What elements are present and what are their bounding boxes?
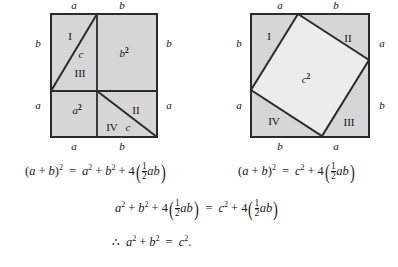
left-region-II: II (132, 104, 140, 116)
left-diagram-svg: I III II IV c c b2 a2 (50, 13, 158, 138)
left-bottom-label-a: a (62, 141, 86, 152)
eq1r-exp: 2 (272, 163, 276, 172)
left-region-IV: IV (106, 121, 118, 133)
eq2-coef1: 4 (162, 201, 168, 215)
eq1r-a: a (242, 164, 248, 178)
equation-2: a2+b2+4(12ab)=c2+4(12ab) (115, 199, 279, 220)
eq2-fraction-2: 12 (255, 199, 260, 220)
eq1l-coef: 4 (129, 164, 135, 178)
therefore-symbol: ∴ (112, 235, 120, 249)
left-top-label-b: b (110, 0, 134, 11)
eq1r-equals: = (282, 164, 289, 178)
eq2-t2exp: 2 (145, 200, 149, 209)
eq2-frac2-den: 2 (255, 208, 260, 219)
eq1l-plus3: + (119, 164, 126, 178)
eq2-fraction-1: 12 (175, 199, 180, 220)
right-bottom-label-a: a (324, 141, 348, 152)
eq1l-exp: 2 (59, 163, 63, 172)
equation-3: ∴a2+b2=c2. (112, 236, 191, 249)
left-diagram: I III II IV c c b2 a2 (50, 13, 158, 138)
eq1l-fraction: 12 (142, 162, 147, 183)
eq1l-plus1: + (38, 164, 45, 178)
eq2-coef2: 4 (241, 201, 247, 215)
left-right-label-a: a (163, 100, 175, 111)
eq2-frac1-den: 2 (175, 208, 180, 219)
eq3-equals: = (166, 235, 173, 249)
right-region-III: III (344, 116, 355, 128)
eq2-prod1: ab (180, 201, 193, 215)
left-left-label-b: b (32, 38, 44, 49)
eq1l-frac-den: 2 (142, 171, 147, 182)
eq2-equals: = (205, 201, 212, 215)
eq1l-frac-num: 1 (142, 162, 147, 172)
right-diagram-svg: I II III IV c2 (250, 13, 370, 138)
eq1r-t1exp: 2 (301, 163, 305, 172)
left-top-label-a: a (62, 0, 86, 11)
eq3-plus1: + (139, 235, 146, 249)
eq3-t2exp: 2 (156, 234, 160, 243)
eq1r-coef: 4 (318, 164, 324, 178)
eq1l-equals: = (69, 164, 76, 178)
eq1r-prod: ab (336, 164, 349, 178)
eq1r-frac-num: 1 (331, 162, 336, 172)
left-region-III: III (75, 67, 86, 79)
eq2-frac1-num: 1 (175, 199, 180, 209)
eq3-period: . (188, 235, 191, 249)
equation-1-left: (a+b)2=a2+b2+4(12ab) (25, 162, 166, 183)
left-left-label-a: a (32, 100, 44, 111)
equation-1-right: (a+b)2=c2+4(12ab) (238, 162, 355, 183)
right-region-II: II (344, 32, 352, 44)
eq1l-t1exp: 2 (88, 163, 92, 172)
eq3-t1exp: 2 (132, 234, 136, 243)
eq2-prod2: ab (260, 201, 273, 215)
eq1l-paren-open: ( (136, 164, 141, 180)
eq2-t1exp: 2 (121, 200, 125, 209)
eq1l-a: a (29, 164, 35, 178)
eq1r-paren-close: ) (350, 164, 355, 180)
eq1l-t2exp: 2 (112, 163, 116, 172)
right-bottom-label-b: b (268, 141, 292, 152)
left-hyp-label-c-upper: c (79, 48, 84, 60)
left-region-I: I (68, 30, 72, 42)
figure-canvas: I III II IV c c b2 a2 a b b a b a a b I (0, 0, 398, 267)
left-outer-square (51, 14, 157, 137)
right-left-label-b: b (233, 38, 245, 49)
left-right-label-b: b (163, 38, 175, 49)
eq1r-plus3: + (308, 164, 315, 178)
eq2-paren1-close: ) (194, 201, 199, 217)
right-region-IV: IV (268, 115, 280, 127)
eq1l-paren-close: ) (161, 164, 166, 180)
eq1r-paren-open: ( (325, 164, 330, 180)
right-right-label-a: a (376, 38, 388, 49)
eq1r-fraction: 12 (331, 162, 336, 183)
eq1r-plus1: + (251, 164, 258, 178)
eq1l-plus2: + (95, 164, 102, 178)
right-left-label-a: a (233, 100, 245, 111)
right-diagram: I II III IV c2 (250, 13, 370, 138)
left-hyp-label-c-lower: c (126, 121, 131, 133)
eq2-frac2-num: 1 (255, 199, 260, 209)
eq2-paren1-open: ( (169, 201, 174, 217)
right-top-label-b: b (324, 0, 348, 11)
eq2-t3exp: 2 (224, 200, 228, 209)
eq2-paren2-close: ) (273, 201, 278, 217)
right-top-label-a: a (268, 0, 292, 11)
eq2-plus2: + (152, 201, 159, 215)
left-bottom-label-b: b (110, 141, 134, 152)
right-region-I: I (267, 30, 271, 42)
eq1l-prod: ab (147, 164, 160, 178)
eq2-paren2-open: ( (248, 201, 253, 217)
eq2-plus3: + (231, 201, 238, 215)
eq1r-frac-den: 2 (331, 171, 336, 182)
eq2-plus1: + (128, 201, 135, 215)
right-right-label-b: b (376, 100, 388, 111)
